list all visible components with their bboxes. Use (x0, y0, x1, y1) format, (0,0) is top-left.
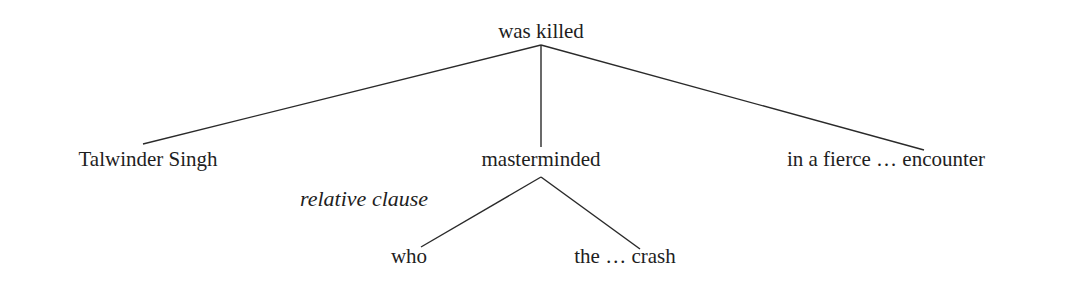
node-the-crash: the … crash (574, 246, 675, 267)
relative-clause-annotation: relative clause (300, 188, 428, 210)
node-masterminded: masterminded (482, 149, 601, 170)
edge-root-talwinder (143, 45, 541, 144)
node-talwinder-singh: Talwinder Singh (78, 149, 217, 170)
node-who: who (391, 246, 427, 267)
edge-root-encounter (541, 45, 924, 150)
node-root: was killed (498, 21, 584, 42)
tree-diagram: was killed Talwinder Singh masterminded … (0, 0, 1080, 283)
edge-masterminded-crash (541, 177, 640, 249)
node-encounter: in a fierce … encounter (787, 149, 985, 170)
edge-masterminded-who (421, 177, 541, 247)
